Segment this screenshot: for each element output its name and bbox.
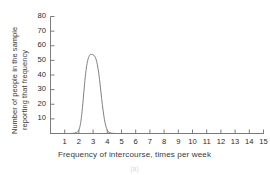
x-axis-tick-labels: 123456789101112131415 [0,137,269,149]
x-tick-label: 1 [58,137,72,146]
distribution-curve [51,54,264,133]
x-tick-label: 2 [72,137,86,146]
x-tick-label: 4 [100,137,114,146]
x-tick-label: 12 [214,137,228,146]
x-tick-label: 14 [242,137,256,146]
x-tick-label: 8 [157,137,171,146]
x-tick-label: 6 [129,137,143,146]
x-tick-label: 13 [228,137,242,146]
x-tick-label: 15 [257,137,270,146]
x-tick-label: 10 [186,137,200,146]
figure-caption: (a) [0,165,269,172]
axes [51,17,264,134]
x-axis-tick-marks [65,130,264,134]
x-tick-label: 9 [171,137,185,146]
x-tick-label: 5 [115,137,129,146]
x-tick-label: 11 [200,137,214,146]
x-tick-label: 3 [86,137,100,146]
y-axis-tick-marks [51,17,55,119]
figure-container: Number of people in the sample reporting… [0,0,269,175]
x-tick-label: 7 [143,137,157,146]
x-axis-title: Frequency of intercourse, times per week [0,150,269,159]
